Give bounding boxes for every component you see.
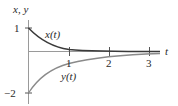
- chart: x, y t 1 −2 1 2 3 x(t) y(t): [0, 0, 178, 106]
- x-axis-label: t: [165, 45, 169, 57]
- x-tick-label-1: 1: [66, 57, 72, 69]
- y-tick-label-neg2: −2: [4, 87, 16, 99]
- curve-label-x: x(t): [44, 28, 61, 41]
- x-tick-label-3: 3: [146, 57, 152, 69]
- y-tick-label-1: 1: [14, 22, 20, 34]
- y-axis-label: x, y: [12, 3, 28, 15]
- curve-y-of-t: [29, 54, 161, 94]
- curve-label-y: y(t): [60, 70, 77, 83]
- x-tick-label-2: 2: [106, 57, 112, 69]
